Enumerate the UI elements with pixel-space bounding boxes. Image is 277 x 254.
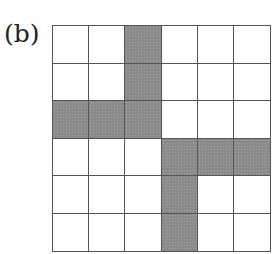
grid-cell — [89, 139, 125, 177]
grid-cell — [234, 176, 270, 214]
grid-cell — [89, 26, 125, 64]
grid-cell — [89, 214, 125, 252]
grid-cell — [234, 101, 270, 139]
grid-cell — [89, 176, 125, 214]
grid-cell — [198, 101, 234, 139]
grid-cell-shaded — [198, 139, 234, 177]
grid-cell — [198, 64, 234, 102]
grid-cell — [53, 139, 89, 177]
figure-label: (b) — [4, 21, 40, 46]
grid-cell — [53, 26, 89, 64]
grid-cell — [89, 64, 125, 102]
grid-cell — [125, 139, 161, 177]
grid-cell-shaded — [125, 101, 161, 139]
grid-cell-shaded — [234, 139, 270, 177]
grid-cell — [234, 214, 270, 252]
grid-cell — [234, 26, 270, 64]
grid-cell-shaded — [162, 139, 198, 177]
grid-cell — [162, 26, 198, 64]
grid-cell — [198, 214, 234, 252]
grid-cell — [125, 176, 161, 214]
grid-diagram — [52, 25, 271, 252]
grid-cell-shaded — [162, 176, 198, 214]
grid-cell-shaded — [125, 26, 161, 64]
grid-cell — [162, 64, 198, 102]
grid-cell — [53, 214, 89, 252]
grid-cell-shaded — [53, 101, 89, 139]
grid-cell — [234, 64, 270, 102]
grid-cell-shaded — [125, 64, 161, 102]
grid-cell-shaded — [162, 214, 198, 252]
grid-cell — [125, 214, 161, 252]
grid-cell-shaded — [89, 101, 125, 139]
grid-cell — [162, 101, 198, 139]
grid-cell — [53, 64, 89, 102]
grid-cell — [198, 176, 234, 214]
grid-cell — [53, 176, 89, 214]
grid-cell — [198, 26, 234, 64]
